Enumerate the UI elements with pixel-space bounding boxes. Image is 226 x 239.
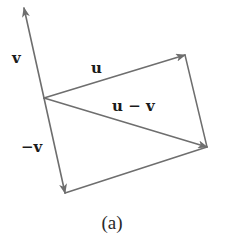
edge-u-head-to-difference-head (185, 55, 207, 147)
vector-neg-v-arrow (44, 98, 65, 193)
label-u-minus-v: u − v (112, 97, 156, 115)
label-u: u (91, 59, 102, 77)
vector-v-arrow (24, 8, 44, 98)
figure-caption: (a) (101, 212, 122, 234)
vector-subtraction-diagram: v u u − v −v (a) (0, 0, 226, 239)
edge-neg-v-head-to-difference-head (65, 147, 207, 193)
vector-u-arrow (44, 55, 185, 98)
label-v: v (11, 49, 22, 67)
label-neg-v: −v (21, 138, 44, 156)
